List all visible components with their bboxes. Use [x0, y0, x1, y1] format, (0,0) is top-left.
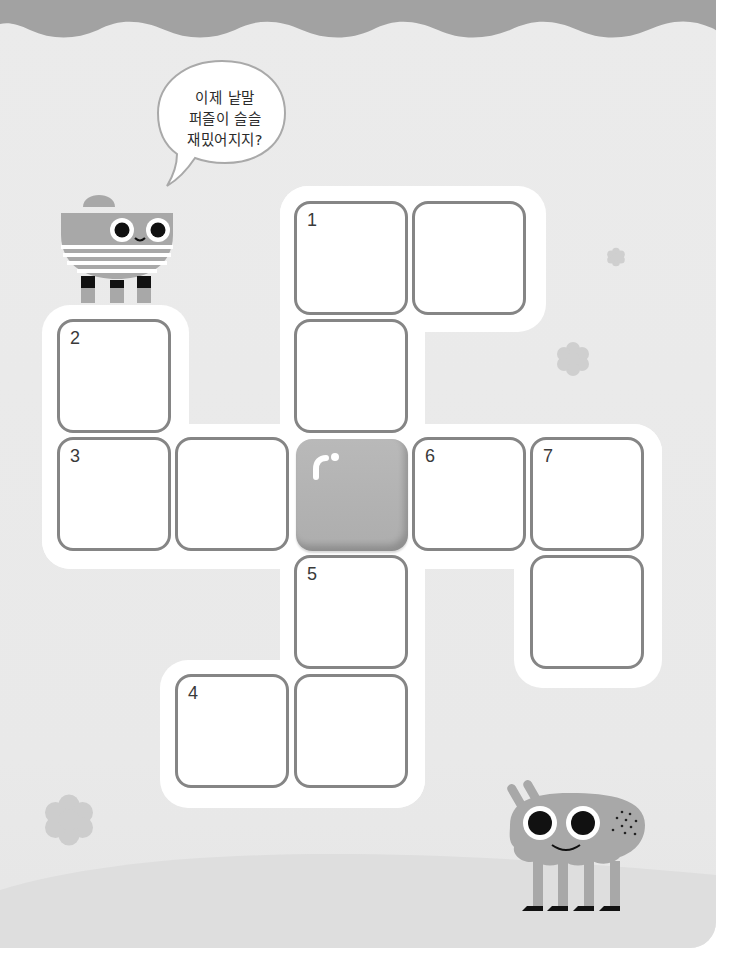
- crossword-cell[interactable]: [294, 319, 408, 433]
- crossword-cell-1[interactable]: 1: [294, 201, 408, 315]
- crossword-cell[interactable]: [530, 555, 644, 669]
- crossword-cell-2[interactable]: 2: [57, 319, 171, 433]
- crossword-cell-filled-block: [296, 439, 408, 551]
- clue-number: 1: [307, 210, 317, 231]
- clue-number: 5: [307, 564, 317, 585]
- shine-highlight-icon: [310, 451, 346, 481]
- crossword-cell-4[interactable]: 4: [175, 674, 289, 788]
- crossword-cell-7[interactable]: 7: [530, 437, 644, 551]
- crossword-cell[interactable]: [412, 201, 526, 315]
- crossword-cell[interactable]: [175, 437, 289, 551]
- puzzle-page: 이제 낱말 퍼즐이 슬슬 재밌어지지?: [0, 0, 716, 948]
- crossword-cell-3[interactable]: 3: [57, 437, 171, 551]
- four-legged-monster-icon: [500, 775, 650, 915]
- clue-number: 2: [70, 328, 80, 349]
- clue-number: 3: [70, 446, 80, 467]
- crossword-cell-6[interactable]: 6: [412, 437, 526, 551]
- crossword-cell-5[interactable]: 5: [294, 555, 408, 669]
- clue-number: 7: [543, 446, 553, 467]
- crossword-cell[interactable]: [294, 674, 408, 788]
- clue-number: 4: [188, 683, 198, 704]
- clue-number: 6: [425, 446, 435, 467]
